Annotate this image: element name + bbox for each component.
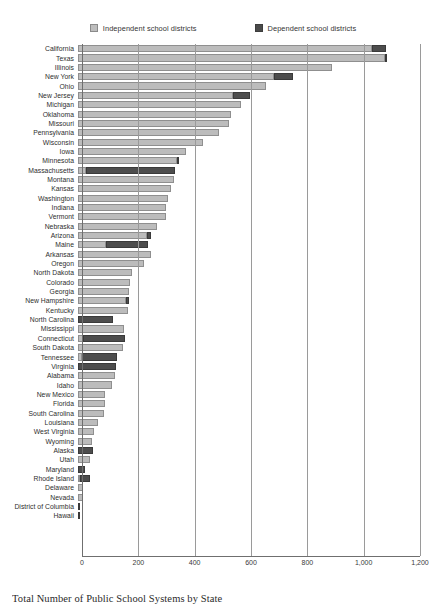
bar-segment-dependent [372, 45, 387, 52]
stacked-bar [78, 456, 90, 463]
bar-track [78, 418, 446, 427]
bar-segment-independent [78, 372, 115, 379]
bar-row-label: California [0, 44, 78, 53]
bar-row: North Dakota [0, 268, 446, 277]
bar-track [78, 306, 446, 315]
stacked-bar [78, 213, 166, 220]
bar-segment-independent [78, 139, 203, 146]
bar-row-label: Colorado [0, 278, 78, 287]
bar-track [78, 455, 446, 464]
bar-segment-independent [78, 381, 112, 388]
bar-track [78, 128, 446, 137]
bar-row-label: Illinois [0, 63, 78, 72]
bar-row-label: New Jersey [0, 91, 78, 100]
bar-track [78, 184, 446, 193]
bar-track [78, 474, 446, 483]
stacked-bar [78, 64, 332, 71]
bar-row-label: Vermont [0, 212, 78, 221]
bar-row: Utah [0, 455, 446, 464]
bar-row: New Mexico [0, 390, 446, 399]
bar-row-label: Ohio [0, 82, 78, 91]
stacked-bar [78, 297, 129, 304]
stacked-bar [78, 363, 116, 370]
legend-label-dependent: Dependent school districts [268, 24, 357, 33]
bar-row: Alaska [0, 446, 446, 455]
legend-label-independent: Independent school districts [103, 24, 197, 33]
bar-segment-independent [78, 494, 83, 501]
x-tick-label: 600 [245, 559, 257, 566]
bar-segment-dependent [233, 92, 250, 99]
x-tick-label: 800 [301, 559, 313, 566]
bar-track [78, 100, 446, 109]
bar-segment-independent [78, 101, 241, 108]
bar-track [78, 343, 446, 352]
bar-row-label: Nebraska [0, 222, 78, 231]
bar-row-label: Missouri [0, 119, 78, 128]
bar-row-label: Arkansas [0, 250, 78, 259]
stacked-bar [78, 195, 168, 202]
figure-caption: Total Number of Public School Systems by… [12, 593, 432, 604]
bar-track [78, 324, 446, 333]
bar-track [78, 147, 446, 156]
bar-row: Idaho [0, 380, 446, 389]
bar-segment-independent [78, 251, 151, 258]
stacked-bar [78, 391, 105, 398]
bar-row-label: Idaho [0, 381, 78, 390]
bar-row: Nevada [0, 493, 446, 502]
stacked-bar [78, 419, 98, 426]
bar-track [78, 446, 446, 455]
bar-row: Indiana [0, 203, 446, 212]
bar-segment-independent [78, 73, 274, 80]
bar-track [78, 278, 446, 287]
bar-segment-independent [78, 92, 233, 99]
bar-segment-dependent [147, 232, 151, 239]
bar-row-label: Nevada [0, 493, 78, 502]
bar-segment-dependent [80, 475, 90, 482]
bar-segment-independent [78, 232, 147, 239]
bar-row: North Carolina [0, 315, 446, 324]
bar-row-label: Maine [0, 240, 78, 249]
bar-row-label: Massachusetts [0, 166, 78, 175]
bar-segment-independent [78, 325, 124, 332]
bar-track [78, 268, 446, 277]
stacked-bar [78, 428, 94, 435]
bar-segment-independent [78, 307, 128, 314]
bar-row: Kansas [0, 184, 446, 193]
bar-segment-independent [78, 400, 105, 407]
bar-segment-dependent [86, 167, 175, 174]
bar-segment-independent [78, 456, 90, 463]
bar-track [78, 399, 446, 408]
bar-track [78, 296, 446, 305]
bar-segment-dependent [78, 466, 85, 473]
bar-track [78, 231, 446, 240]
bar-track [78, 137, 446, 146]
bar-row-label: Connecticut [0, 334, 78, 343]
bar-track [78, 483, 446, 492]
stacked-bar [78, 344, 123, 351]
bar-segment-independent [78, 129, 219, 136]
bar-row-label: Minnesota [0, 156, 78, 165]
bar-segment-independent [78, 204, 166, 211]
bar-segment-independent [78, 64, 332, 71]
bar-segment-dependent [78, 316, 113, 323]
legend-entry-independent: Independent school districts [90, 24, 197, 33]
bar-row-label: West Virginia [0, 427, 78, 436]
bar-track [78, 44, 446, 53]
bar-track [78, 81, 446, 90]
bar-row: Montana [0, 175, 446, 184]
stacked-bar [78, 241, 148, 248]
bar-row-label: Hawaii [0, 511, 78, 520]
stacked-bar [78, 475, 90, 482]
stacked-bar [78, 120, 229, 127]
stacked-bar [78, 438, 92, 445]
bar-row-label: Tennessee [0, 353, 78, 362]
stacked-bar [78, 316, 113, 323]
stacked-bar [78, 288, 129, 295]
bar-row: Nebraska [0, 222, 446, 231]
bar-track [78, 511, 446, 520]
bar-row: Minnesota [0, 156, 446, 165]
bar-segment-independent [78, 185, 171, 192]
bar-row-label: Kentucky [0, 306, 78, 315]
bar-segment-independent [78, 54, 385, 61]
bar-track [78, 109, 446, 118]
